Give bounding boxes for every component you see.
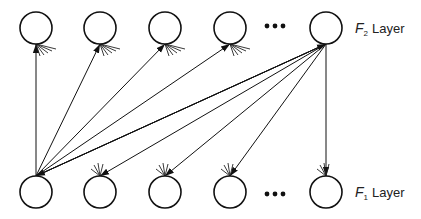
f2-node-0 xyxy=(20,12,52,44)
ellipsis-dot xyxy=(281,192,286,197)
ellipsis-dot xyxy=(281,24,286,29)
f2-node-2 xyxy=(149,12,181,44)
f2-node-3 xyxy=(214,12,246,44)
ellipsis-dot xyxy=(265,24,270,29)
ellipsis-dots xyxy=(265,24,286,197)
edge-up xyxy=(36,44,100,176)
f1-node-2 xyxy=(149,176,181,208)
f1-node-3 xyxy=(214,176,246,208)
edge-up-last xyxy=(36,44,326,176)
edge-down xyxy=(230,44,326,176)
f2-sub: 2 xyxy=(364,29,368,38)
f1-var: F xyxy=(355,184,364,200)
edge-down xyxy=(100,44,326,176)
connection-edges xyxy=(36,44,326,176)
f2-node-4 xyxy=(310,12,342,44)
edge-down xyxy=(165,44,326,176)
edge-up xyxy=(36,44,165,176)
ellipsis-dot xyxy=(265,192,270,197)
ellipsis-dot xyxy=(273,24,278,29)
f1-node-4 xyxy=(310,176,342,208)
f1-layer-label: F1Layer xyxy=(355,184,405,202)
f1-text: Layer xyxy=(372,185,405,200)
ellipsis-dot xyxy=(273,192,278,197)
f2-text: Layer xyxy=(372,21,405,36)
f2-var: F xyxy=(355,20,364,36)
f1-sub: 1 xyxy=(364,193,368,202)
f2-layer-label: F2Layer xyxy=(355,20,405,38)
f1-node-1 xyxy=(84,176,116,208)
f2-node-1 xyxy=(84,12,116,44)
f1-node-0 xyxy=(20,176,52,208)
